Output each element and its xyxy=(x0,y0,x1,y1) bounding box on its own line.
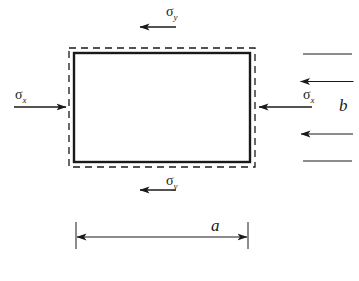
stress-element-figure: σy σx σx σy a b xyxy=(0,0,359,281)
plate-solid-outline xyxy=(74,53,250,162)
dimension-a-label: a xyxy=(211,216,220,235)
sigma-y-top-label: σy xyxy=(166,4,178,22)
sigma-x-right-label: σx xyxy=(303,87,315,105)
dimension-b-label: b xyxy=(339,96,348,115)
sigma-x-left-label: σx xyxy=(15,87,27,105)
diagram-canvas: σy σx σx σy a b xyxy=(0,0,359,281)
sigma-y-bottom-label: σy xyxy=(166,173,178,191)
